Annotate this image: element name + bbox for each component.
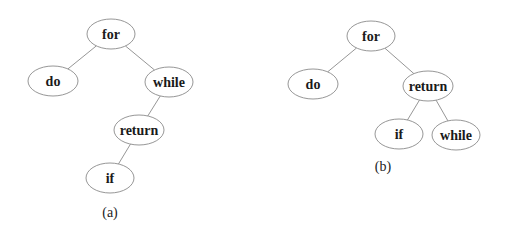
edge-for-return (385, 48, 414, 73)
node-label: return (409, 79, 448, 94)
edge-return-while (436, 100, 448, 121)
edge-return-if (118, 144, 130, 164)
caption-b: (b) (375, 159, 392, 175)
edge-while-return (148, 96, 160, 116)
node-for: for (87, 19, 135, 49)
edge-for-while (125, 46, 154, 70)
edge-return-if (407, 100, 419, 120)
node-return: return (114, 115, 164, 145)
node-return: return (403, 71, 453, 101)
node-if: if (375, 119, 423, 149)
node-label: for (102, 27, 120, 42)
edge-for-do (68, 46, 96, 69)
node-do: do (28, 66, 78, 96)
node-label: while (440, 128, 472, 143)
node-if: if (86, 163, 134, 193)
node-while: while (432, 120, 480, 150)
node-for: for (347, 21, 395, 51)
node-label: for (362, 29, 380, 44)
caption-a: (a) (102, 205, 118, 221)
node-label: do (306, 77, 321, 92)
node-label: if (395, 127, 404, 142)
edge-for-do (328, 48, 357, 72)
node-label: if (106, 171, 115, 186)
node-label: do (46, 74, 61, 89)
tree-a: fordowhilereturnif(a) (28, 19, 193, 221)
node-label: while (153, 75, 185, 90)
node-label: return (120, 123, 159, 138)
node-do: do (288, 69, 338, 99)
tree-figure: fordowhilereturnif(a)fordoreturnifwhile(… (0, 0, 507, 239)
node-while: while (145, 67, 193, 97)
trees-group: fordowhilereturnif(a)fordoreturnifwhile(… (28, 19, 480, 221)
tree-b: fordoreturnifwhile(b) (288, 21, 480, 175)
